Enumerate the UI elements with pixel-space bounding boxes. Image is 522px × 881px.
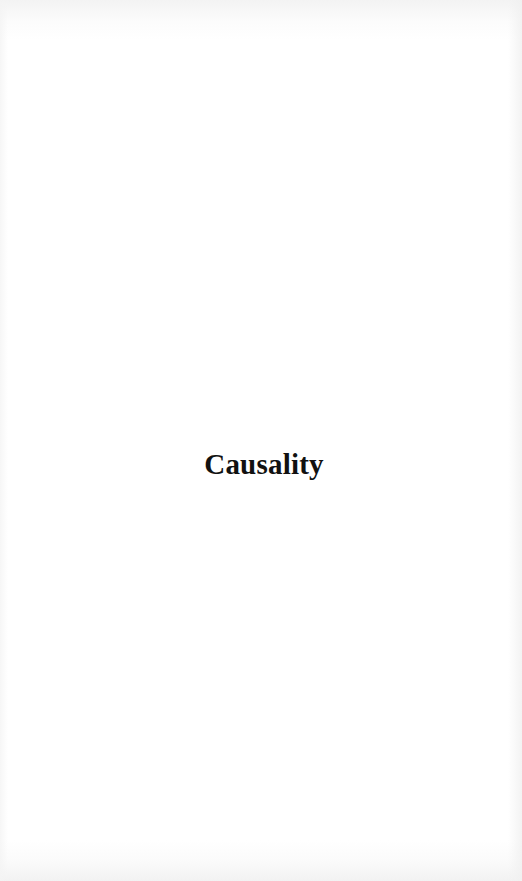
page-edge-left — [0, 0, 8, 881]
part-title: Causality — [0, 445, 522, 483]
book-page: Causality — [0, 0, 522, 881]
page-edge-right — [508, 0, 522, 881]
